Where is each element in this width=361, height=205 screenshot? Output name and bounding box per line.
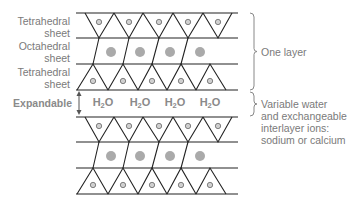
- small-ion-icon: [207, 78, 212, 83]
- large-ion-icon: [165, 47, 175, 57]
- label-line: sheet: [2, 78, 70, 90]
- label-line: interlayer ions:: [261, 122, 347, 134]
- small-ion-icon: [149, 78, 154, 83]
- small-ion-icon: [90, 78, 95, 83]
- braces: [250, 13, 257, 116]
- label-line: Tetrahedral: [2, 66, 70, 78]
- tetrahedra-top: [85, 13, 232, 38]
- small-ion-icon: [185, 19, 190, 24]
- small-ion-icon: [126, 123, 131, 128]
- expandable-arrow: [77, 91, 82, 115]
- small-ion-icon: [178, 78, 183, 83]
- water-formula-part: H: [130, 96, 138, 108]
- tetrahedra-top: [85, 117, 232, 142]
- water-molecule-label: H2O: [165, 96, 186, 110]
- tetrahedra-bottom: [77, 168, 226, 194]
- water-formula-part: O: [142, 96, 151, 108]
- large-ion-icon: [106, 47, 116, 57]
- small-ion-icon: [156, 123, 161, 128]
- label-line: sheet: [2, 27, 70, 39]
- water-formula-part: O: [212, 96, 221, 108]
- arrow-up-icon: [77, 91, 82, 96]
- label-interlayer: Variable water and exchangeable interlay…: [261, 98, 347, 146]
- small-ion-icon: [120, 78, 125, 83]
- label-octahedral-sheet: Octahedral sheet: [2, 40, 70, 64]
- large-ion-icon: [135, 47, 145, 57]
- large-ion-icon: [135, 151, 145, 161]
- small-ion-icon: [96, 19, 101, 24]
- water-formula-part: O: [177, 96, 186, 108]
- water-formula-part: H: [165, 96, 173, 108]
- label-line: Octahedral: [2, 40, 70, 52]
- tot-layer: [76, 13, 238, 90]
- small-ion-icon: [90, 182, 95, 187]
- tetrahedra-bottom: [77, 64, 226, 90]
- label-line: Variable water: [261, 98, 347, 110]
- small-ion-icon: [215, 19, 220, 24]
- label-tetrahedral-sheet-top: Tetrahedral sheet: [2, 15, 70, 39]
- arrow-down-icon: [77, 110, 82, 115]
- small-ion-icon: [149, 182, 154, 187]
- label-line: Tetrahedral: [2, 15, 70, 27]
- label-line: sheet: [2, 52, 70, 64]
- small-ion-icon: [120, 182, 125, 187]
- large-ion-icon: [165, 151, 175, 161]
- small-ion-icon: [178, 182, 183, 187]
- label-one-layer: One layer: [261, 46, 307, 58]
- large-ion-icon: [195, 47, 205, 57]
- label-expandable: Expandable: [4, 97, 72, 109]
- water-formula-part: H: [93, 96, 101, 108]
- large-ion-icon: [106, 151, 116, 161]
- water-molecule-label: H2O: [200, 96, 221, 110]
- water-formula-part: H: [200, 96, 208, 108]
- brace-one-layer-icon: [250, 13, 257, 90]
- small-ion-icon: [185, 123, 190, 128]
- small-ion-icon: [156, 19, 161, 24]
- small-ion-icon: [96, 123, 101, 128]
- small-ion-icon: [207, 182, 212, 187]
- brace-interlayer-icon: [250, 92, 257, 116]
- label-tetrahedral-sheet-bottom: Tetrahedral sheet: [2, 66, 70, 90]
- small-ion-icon: [215, 123, 220, 128]
- small-ion-icon: [126, 19, 131, 24]
- water-molecule-label: H2O: [130, 96, 151, 110]
- large-ion-icon: [195, 151, 205, 161]
- water-molecule-label: H2O: [93, 96, 114, 110]
- label-line: sodium or calcium: [261, 134, 347, 146]
- water-formula-part: O: [105, 96, 114, 108]
- tot-layer: [76, 117, 238, 194]
- label-line: and exchangeable: [261, 110, 347, 122]
